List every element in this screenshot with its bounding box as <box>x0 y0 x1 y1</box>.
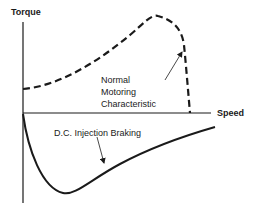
motoring-annotation-arrow <box>165 52 182 80</box>
motoring-annotation-line-3: Characteristic <box>101 98 156 110</box>
braking-annotation-arrow <box>97 137 104 163</box>
braking-annotation: D.C. Injection Braking <box>54 127 141 139</box>
braking-curve <box>23 114 215 193</box>
motoring-annotation-line-2: Motoring <box>101 86 156 98</box>
y-axis-label: Torque <box>11 8 41 17</box>
motoring-annotation: Normal Motoring Characteristic <box>101 74 156 110</box>
motoring-annotation-line-1: Normal <box>101 74 156 86</box>
x-axis-label: Speed <box>217 109 244 118</box>
